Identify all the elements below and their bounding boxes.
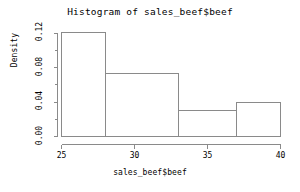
x-axis-label: sales_beef$beef	[0, 168, 300, 177]
histogram-plot: Histogram of sales_beef$beef 25303540 0.…	[0, 0, 300, 192]
x-tick-label: 30	[120, 151, 150, 160]
histogram-bar	[237, 102, 281, 136]
y-tick-label: 0.04	[35, 88, 44, 114]
x-tick-label: 35	[193, 151, 223, 160]
chart-canvas	[0, 0, 300, 192]
axes-group	[54, 33, 281, 148]
bars-group	[62, 32, 281, 136]
y-axis-label: Density	[10, 0, 19, 50]
y-tick-label: 0.12	[35, 19, 44, 45]
x-tick-label: 25	[47, 151, 77, 160]
x-tick-label: 40	[266, 151, 296, 160]
y-tick-label: 0.00	[35, 122, 44, 148]
histogram-bar	[105, 74, 178, 137]
histogram-bar	[62, 32, 106, 136]
histogram-bar	[178, 111, 236, 137]
y-tick-label: 0.08	[35, 53, 44, 79]
y-axis-label-text: Density	[10, 10, 19, 90]
